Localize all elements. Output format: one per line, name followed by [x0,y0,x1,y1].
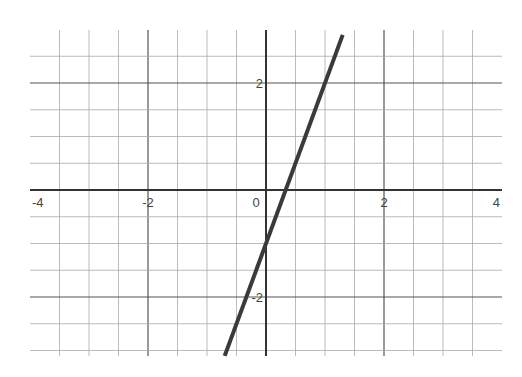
x-tick-label: 4 [493,195,500,210]
x-tick-label: -4 [32,195,44,210]
x-tick-label: 2 [380,195,387,210]
axes [30,30,502,356]
y-tick-label: 2 [256,76,263,91]
y-tick-label: -2 [251,290,263,305]
x-tick-label: 0 [252,195,259,210]
x-tick-label: -2 [142,195,154,210]
line-graph: -4-20242-2 [0,0,522,377]
